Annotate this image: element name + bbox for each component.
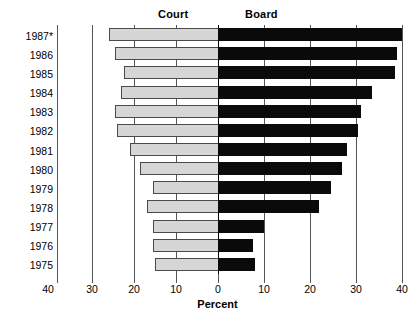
bar-board-1983: [218, 105, 361, 118]
x-tick-label-left-30: 30: [86, 284, 98, 295]
year-label-1977: 1977: [30, 222, 53, 233]
x-axis-title-text: Percent: [197, 299, 237, 310]
year-label-1979: 1979: [30, 184, 53, 195]
x-tick-label-right-20: 20: [304, 284, 316, 295]
x-tick-label-right-0: 0: [215, 284, 221, 295]
bar-court-1982: [117, 124, 219, 137]
x-axis-label-outer-40: 40: [42, 284, 54, 295]
bar-row: [92, 86, 402, 99]
year-label-1982: 1982: [30, 126, 53, 137]
bar-row: [92, 124, 402, 137]
bar-row: [92, 258, 402, 271]
year-label-1983: 1983: [30, 107, 53, 118]
year-label-1975: 1975: [30, 260, 53, 271]
year-label-1980: 1980: [30, 165, 53, 176]
bar-court-1986: [115, 47, 219, 60]
bar-board-1979: [218, 181, 331, 194]
diverging-bar-chart: Court Board 1987*19861985198419831982198…: [0, 0, 419, 314]
x-tick-label-right-40: 40: [396, 284, 408, 295]
x-tick-right-30: [356, 274, 357, 283]
x-tick-left-30: [92, 274, 93, 283]
plot-area: [92, 25, 402, 274]
year-label-1987: 1987*: [26, 31, 53, 42]
bar-row: [92, 28, 402, 41]
bar-court-1981: [130, 143, 219, 156]
bar-board-1987: [218, 28, 402, 41]
x-tick-right-10: [264, 274, 265, 283]
bar-court-1975: [155, 258, 219, 271]
bar-court-1976: [153, 239, 219, 252]
bar-board-1982: [218, 124, 358, 137]
panel-header-court: Court: [158, 8, 188, 20]
bar-board-1985: [218, 66, 395, 79]
year-label-1981: 1981: [30, 146, 53, 157]
x-tick-label-left-20: 20: [128, 284, 140, 295]
bar-row: [92, 143, 402, 156]
year-label-1985: 1985: [30, 69, 53, 80]
bar-row: [92, 66, 402, 79]
bar-court-1980: [140, 162, 219, 175]
panel-header-board: Board: [245, 8, 278, 20]
x-tick-right-40: [402, 274, 403, 283]
bar-row: [92, 162, 402, 175]
x-tick-left-10: [176, 274, 177, 283]
x-tick-label-left-10: 10: [170, 284, 182, 295]
year-label-1984: 1984: [30, 88, 53, 99]
bar-court-1985: [124, 66, 220, 79]
bar-row: [92, 220, 402, 233]
x-tick-right-20: [310, 274, 311, 283]
bar-row: [92, 47, 402, 60]
bar-board-1978: [218, 200, 319, 213]
bar-board-1975: [218, 258, 255, 271]
bar-court-1978: [147, 200, 219, 213]
year-label-1986: 1986: [30, 50, 53, 61]
x-axis-tick-outer-40: [57, 274, 58, 283]
x-tick-left-20: [134, 274, 135, 283]
bar-court-1977: [153, 220, 219, 233]
year-label-1978: 1978: [30, 203, 53, 214]
bar-board-1986: [218, 47, 397, 60]
bar-row: [92, 200, 402, 213]
x-axis-title: Percent: [0, 299, 419, 310]
bar-board-1976: [218, 239, 253, 252]
year-axis-rule: [57, 25, 58, 274]
bar-row: [92, 239, 402, 252]
bar-court-1983: [115, 105, 219, 118]
bar-court-1979: [153, 181, 219, 194]
bar-board-1980: [218, 162, 342, 175]
bar-court-1987: [109, 28, 219, 41]
bar-board-1981: [218, 143, 347, 156]
x-tick-label-right-10: 10: [258, 284, 270, 295]
bar-row: [92, 105, 402, 118]
x-axis-tick-labels: 302010010203040: [0, 284, 419, 298]
year-axis: 1987*19861985198419831982198119801979197…: [0, 26, 56, 274]
bar-court-1984: [121, 86, 219, 99]
gridline-right-40: [402, 25, 403, 274]
bar-row: [92, 181, 402, 194]
x-tick-right-0: [218, 274, 219, 283]
bar-board-1984: [218, 86, 372, 99]
year-label-1976: 1976: [30, 241, 53, 252]
x-tick-label-right-30: 30: [350, 284, 362, 295]
bar-board-1977: [218, 220, 264, 233]
